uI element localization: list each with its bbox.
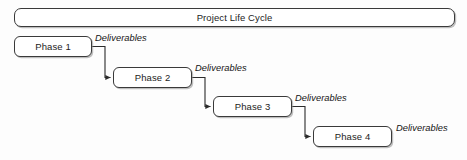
phase-1-label: Phase 1 [35, 41, 71, 52]
project-life-cycle-diagram: Project Life Cycle Phase 1 Phase 2 Phase… [0, 0, 467, 160]
phase-3-box: Phase 3 [213, 96, 292, 117]
phase-3-label: Phase 3 [235, 101, 271, 112]
deliverables-label-phase2: Deliverables [195, 63, 247, 73]
connector-phase1-to-phase2 [92, 47, 111, 78]
deliverables-label-phase3: Deliverables [295, 93, 347, 103]
connector-phase3-to-phase4 [292, 107, 311, 137]
deliverables-label-phase4: Deliverables [396, 123, 448, 133]
phase-1-box: Phase 1 [14, 36, 92, 57]
project-life-cycle-banner-label: Project Life Cycle [197, 12, 273, 23]
phase-2-box: Phase 2 [113, 67, 192, 88]
phase-4-box: Phase 4 [313, 126, 392, 147]
phase-2-label: Phase 2 [135, 72, 171, 83]
phase-4-label: Phase 4 [335, 131, 371, 142]
deliverables-label-phase1: Deliverables [95, 33, 147, 43]
connector-phase2-to-phase3 [192, 78, 211, 107]
project-life-cycle-banner: Project Life Cycle [14, 8, 455, 27]
